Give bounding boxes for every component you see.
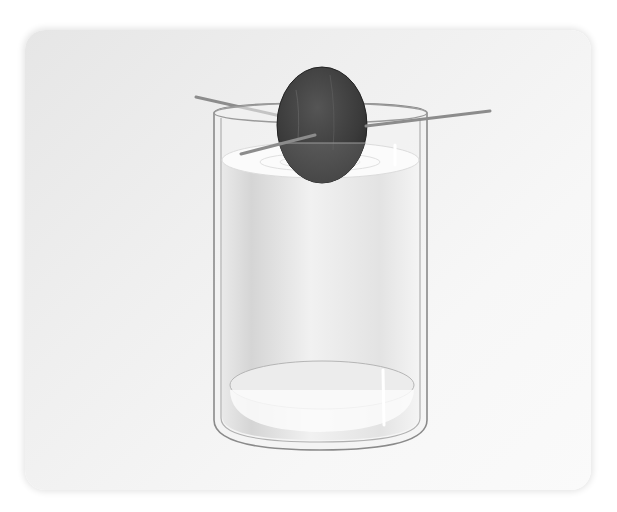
water <box>222 142 419 440</box>
avocado-glass-illustration <box>0 0 617 512</box>
avocado-seed <box>277 67 367 183</box>
